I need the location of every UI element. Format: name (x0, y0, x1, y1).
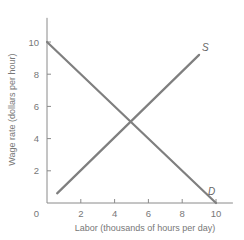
x-tick-label: 6 (146, 208, 151, 219)
y-tick-label: 10 (28, 37, 39, 48)
x-tick-label: 8 (180, 208, 185, 219)
y-tick-label: 8 (34, 69, 39, 80)
supply-curve (57, 55, 199, 193)
x-tick-label: 2 (78, 208, 83, 219)
y-tick-label: 4 (34, 133, 39, 144)
origin-label: 0 (34, 208, 39, 219)
x-axis-title: Labor (thousands of hours per day) (75, 223, 216, 233)
y-tick-label: 6 (34, 101, 39, 112)
supply-curve-label: S (202, 42, 209, 53)
supply-demand-chart: 2468102468100Labor (thousands of hours p… (0, 0, 244, 240)
curves (47, 42, 216, 203)
x-tick-label: 4 (112, 208, 117, 219)
x-tick-label: 10 (211, 208, 222, 219)
y-axis-title: Wage rate (dollars per hour) (7, 54, 17, 166)
demand-curve-label: D (208, 186, 215, 197)
y-tick-label: 2 (34, 165, 39, 176)
